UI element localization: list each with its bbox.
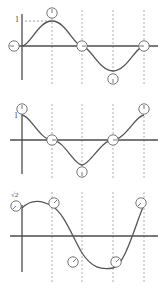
panel-cosine: [10, 104, 158, 178]
marker-zero: [77, 41, 87, 51]
marker-rise: [111, 257, 121, 267]
marker-start: [17, 104, 27, 114]
amplitude-label-panel-sine: 1: [15, 16, 19, 24]
amplitude-label-panel-shifted: √2: [11, 192, 18, 199]
marker-end: [139, 41, 149, 51]
marker-start: [9, 41, 19, 51]
marker-cross: [68, 257, 78, 267]
waveform-canvas: [0, 0, 160, 288]
waveform-figure: 1 1 √2: [0, 0, 160, 288]
marker-end: [136, 198, 146, 208]
gridlines-panel-shifted: [52, 192, 144, 282]
marker-trough: [77, 167, 87, 177]
marker-peak: [47, 8, 57, 18]
shifted-curve: [22, 201, 144, 268]
panel-shifted: [10, 192, 158, 282]
marker-start: [11, 201, 21, 211]
gridlines-panel-cosine: [52, 104, 144, 178]
marker-trough: [108, 74, 118, 84]
gridlines-panel-sine: [52, 10, 144, 84]
panel-sine: [9, 8, 158, 84]
marker-fall: [49, 198, 59, 208]
marker-zero-1: [47, 135, 57, 145]
marker-zero-2: [108, 135, 118, 145]
marker-end: [139, 104, 149, 114]
amplitude-label-panel-cosine: 1: [14, 112, 18, 120]
